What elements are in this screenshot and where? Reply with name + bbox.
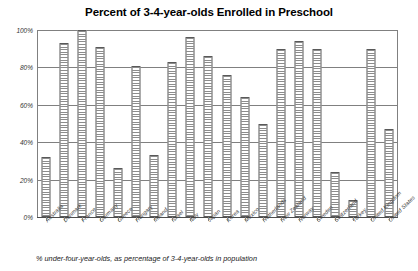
bar-slot [91,30,109,217]
y-axis-tick-label: 0% [3,214,33,221]
x-axis-tick [389,217,390,221]
bar[interactable] [132,66,141,217]
x-axis-tick [100,217,101,221]
chart-title: Percent of 3-4-year-olds Enrolled in Pre… [0,6,418,18]
x-axis-tick [335,217,336,221]
bar-slot [326,30,344,217]
bar-slot [236,30,254,217]
x-axis-tick [190,217,191,221]
bar[interactable] [60,43,69,217]
x-axis-tick [371,217,372,221]
x-axis-tick [154,217,155,221]
x-axis-tick [208,217,209,221]
x-axis-tick [281,217,282,221]
y-axis-tick-label: 80% [3,64,33,71]
bar-slot [145,30,163,217]
bar-slot [127,30,145,217]
bar[interactable] [240,97,249,217]
bar[interactable] [312,49,321,217]
x-axis-tick [227,217,228,221]
x-axis-labels: AustraliaDenmarkFranceGermanyGreeceHunga… [37,219,398,253]
bar-slot [218,30,236,217]
chart-footnote: % under-four-year-olds, as percentage of… [36,254,257,263]
x-axis-tick [317,217,318,221]
bar[interactable] [366,49,375,217]
x-axis-tick [46,217,47,221]
y-axis-tick-label: 20% [3,176,33,183]
bar-slot [380,30,398,217]
bar-slot [181,30,199,217]
bar-slot [254,30,272,217]
y-axis-tick-label: 40% [3,139,33,146]
bar[interactable] [204,56,213,217]
bar[interactable] [168,62,177,217]
x-axis-tick [82,217,83,221]
x-axis-tick [136,217,137,221]
gridline [37,217,398,218]
bar-slot [55,30,73,217]
bars-layer [37,30,398,217]
bar-slot [109,30,127,217]
y-axis-tick-label: 100% [3,27,33,34]
bar-slot [272,30,290,217]
x-axis-tick [118,217,119,221]
bar[interactable] [258,124,267,218]
bar[interactable] [276,49,285,217]
bar-slot [362,30,380,217]
y-axis-labels: 100%80%60%40%20%0% [0,30,33,217]
bar[interactable] [186,37,195,217]
bar-slot [344,30,362,217]
bar-slot [163,30,181,217]
x-axis-tick [64,217,65,221]
chart-container: Percent of 3-4-year-olds Enrolled in Pre… [0,0,418,271]
bar-slot [199,30,217,217]
x-axis-tick [172,217,173,221]
bar-slot [290,30,308,217]
bar[interactable] [222,75,231,217]
bar-slot [37,30,55,217]
bar[interactable] [42,157,51,217]
x-axis-tick [353,217,354,221]
bar[interactable] [96,47,105,217]
x-axis-tick [299,217,300,221]
bar[interactable] [294,41,303,217]
bar[interactable] [78,30,87,217]
x-axis-tick [245,217,246,221]
x-axis-tick [263,217,264,221]
bar-slot [308,30,326,217]
y-axis-tick-label: 60% [3,101,33,108]
bar-slot [73,30,91,217]
